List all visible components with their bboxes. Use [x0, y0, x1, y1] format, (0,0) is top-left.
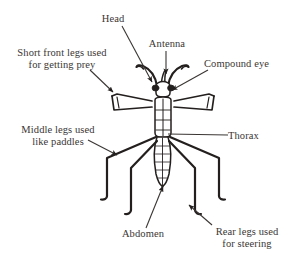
label-antenna: Antenna — [136, 38, 198, 50]
abdomen-group — [154, 137, 170, 191]
leader-abdomen — [146, 186, 163, 228]
compound-eye-left-icon — [152, 85, 159, 91]
rear-leg-left-foot — [125, 210, 131, 214]
label-rear-legs: Rear legs used for steering — [206, 226, 288, 249]
rear-leg-left — [131, 141, 157, 210]
front-leg-right-inner — [207, 97, 209, 108]
label-middle-legs: Middle legs used like paddles — [8, 124, 108, 147]
leader-head — [122, 26, 152, 82]
label-thorax: Thorax — [228, 130, 284, 142]
leader-compound-eye — [172, 70, 208, 90]
middle-leg-left-foot — [101, 196, 107, 200]
compound-eye-right-icon — [168, 85, 175, 91]
thorax-group — [155, 97, 171, 138]
middle-leg-right-foot — [219, 196, 225, 200]
leader-rear-legs — [189, 205, 212, 225]
label-abdomen: Abdomen — [112, 228, 174, 240]
antenna-left — [137, 65, 158, 86]
label-short-front-legs: Short front legs used for getting prey — [6, 47, 118, 70]
leader-thorax — [168, 134, 228, 135]
leader-front-legs — [90, 70, 113, 92]
label-head: Head — [82, 13, 144, 25]
front-leg-left-inner — [117, 97, 119, 108]
label-compound-eye: Compound eye — [204, 58, 288, 70]
insect-body-drawing — [101, 65, 225, 214]
rear-leg-right — [169, 141, 195, 210]
insect-anatomy-diagram: Head Antenna Compound eye Short front le… — [0, 0, 291, 267]
